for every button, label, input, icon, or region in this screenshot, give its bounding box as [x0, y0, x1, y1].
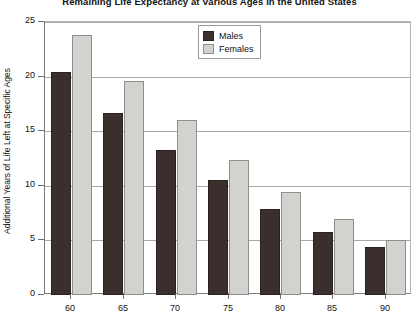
bar-females-65: [124, 81, 144, 295]
bar-females-70: [177, 120, 197, 295]
y-axis-tick: [38, 130, 44, 131]
y-axis-tick: [38, 294, 44, 295]
bar-females-90: [386, 240, 406, 295]
bar-males-90: [365, 247, 385, 295]
x-axis-label: 65: [103, 303, 143, 313]
bar-chart: Remaining Life Expectancy at Various Age…: [0, 0, 419, 324]
x-axis-label: 85: [312, 303, 352, 313]
y-axis-label: 20: [10, 71, 35, 80]
y-axis-tick: [38, 76, 44, 77]
legend-label-males: Males: [219, 31, 243, 41]
gridline: [45, 22, 410, 23]
bar-males-80: [260, 209, 280, 295]
bar-males-60: [51, 72, 71, 295]
bar-males-70: [156, 150, 176, 295]
x-axis-tick: [332, 294, 333, 299]
legend-swatch-females-icon: [203, 44, 214, 54]
legend-item-females: Females: [203, 42, 254, 55]
y-axis-tick: [38, 21, 44, 22]
x-axis-label: 90: [365, 303, 405, 313]
chart-title: Remaining Life Expectancy at Various Age…: [0, 0, 419, 7]
x-axis-tick: [228, 294, 229, 299]
x-axis-label: 60: [50, 303, 90, 313]
y-axis-label: 15: [10, 125, 35, 134]
y-axis-label: 5: [10, 234, 35, 243]
bar-females-75: [229, 160, 249, 295]
y-axis-label: 10: [10, 180, 35, 189]
y-axis-label: 25: [10, 16, 35, 25]
x-axis-label: 80: [260, 303, 300, 313]
x-axis-tick: [385, 294, 386, 299]
bar-males-65: [103, 113, 123, 295]
bar-males-85: [313, 232, 333, 295]
y-axis-label: 0: [10, 289, 35, 298]
plot-area: [44, 21, 411, 294]
x-axis-label: 70: [155, 303, 195, 313]
gridline: [45, 131, 410, 132]
y-axis-tick: [38, 185, 44, 186]
x-axis-tick: [123, 294, 124, 299]
bar-females-60: [72, 35, 92, 295]
y-axis-tick: [38, 239, 44, 240]
y-axis-title: Additional Years of Life Left at Specifi…: [2, 6, 16, 296]
chart-legend: Males Females: [198, 25, 261, 59]
x-axis-tick: [175, 294, 176, 299]
x-axis-label: 75: [208, 303, 248, 313]
bar-males-75: [208, 180, 228, 295]
legend-label-females: Females: [219, 44, 254, 54]
legend-item-males: Males: [203, 29, 254, 42]
gridline: [45, 77, 410, 78]
x-axis-tick: [280, 294, 281, 299]
x-axis-tick: [70, 294, 71, 299]
bar-females-85: [334, 219, 354, 295]
bar-females-80: [281, 192, 301, 295]
legend-swatch-males-icon: [203, 31, 214, 41]
